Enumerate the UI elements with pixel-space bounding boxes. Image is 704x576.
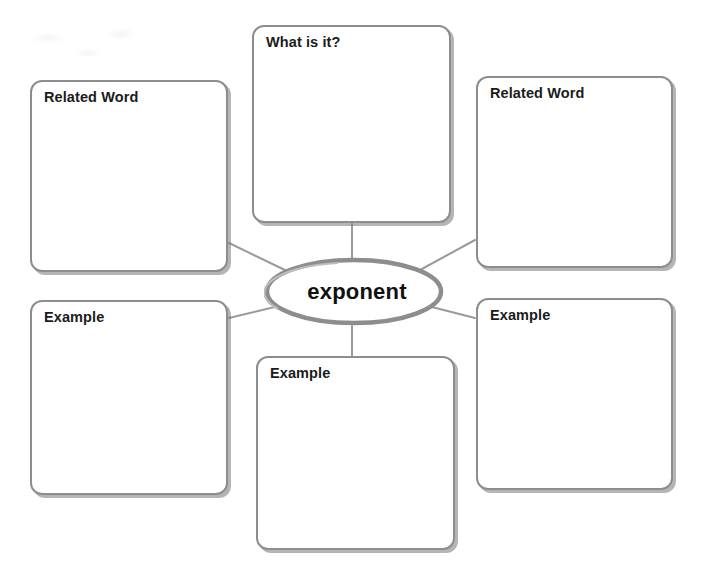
node-label: Related Word	[44, 89, 138, 105]
node-box-example-bottom[interactable]: Example	[256, 356, 455, 550]
node-label: Example	[490, 307, 550, 323]
node-box-example-left[interactable]: Example	[30, 300, 228, 495]
node-label: Related Word	[490, 85, 584, 101]
center-term-node[interactable]: exponent	[264, 257, 444, 326]
node-label: What is it?	[266, 34, 340, 50]
node-label: Example	[270, 365, 330, 381]
word-map-canvas: What is it? Related Word Related Word Ex…	[0, 0, 704, 576]
node-box-related-word-right[interactable]: Related Word	[476, 76, 673, 268]
node-label: Example	[44, 309, 104, 325]
node-box-related-word-left[interactable]: Related Word	[30, 80, 228, 272]
center-term-label: exponent	[264, 257, 444, 326]
node-box-example-right[interactable]: Example	[476, 298, 673, 490]
node-box-what-is-it[interactable]: What is it?	[252, 25, 451, 223]
